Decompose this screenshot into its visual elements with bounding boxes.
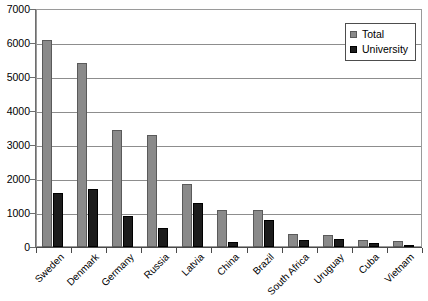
x-axis-tick-mark xyxy=(106,248,107,253)
x-axis-tick-mark xyxy=(387,248,388,253)
x-axis-category-label: Russia xyxy=(142,252,171,281)
legend-entry: University xyxy=(350,42,408,57)
x-axis-tick-mark xyxy=(211,248,212,253)
x-axis-tick-mark xyxy=(176,248,177,253)
x-axis-tick-mark xyxy=(141,248,142,253)
x-axis-tick-mark xyxy=(71,248,72,253)
y-axis-tick-mark xyxy=(30,111,36,112)
x-axis-category-label: Cuba xyxy=(357,252,381,276)
x-axis-category-label: Denmark xyxy=(65,252,101,288)
x-axis-category-label: China xyxy=(216,252,242,278)
bar-chart: 70006000500040003000200010000 SwedenDenm… xyxy=(0,0,428,301)
x-axis-category-label: Latvia xyxy=(180,252,206,278)
x-axis-tick-mark xyxy=(282,248,283,253)
x-axis-tick-mark xyxy=(317,248,318,253)
legend-label: University xyxy=(362,44,408,55)
x-axis-category-label: Sweden xyxy=(33,252,66,285)
x-axis-tick-mark xyxy=(36,248,37,253)
chart-legend: TotalUniversity xyxy=(345,23,416,61)
x-axis-tick-mark xyxy=(247,248,248,253)
legend-entry: Total xyxy=(350,27,408,42)
y-axis-tick-mark xyxy=(30,9,36,10)
total-swatch xyxy=(350,31,357,38)
y-axis-tick-mark xyxy=(30,145,36,146)
y-axis-tick-mark xyxy=(30,77,36,78)
x-axis-category-label: Uruguay xyxy=(313,252,347,286)
legend-label: Total xyxy=(362,29,384,40)
x-axis-tick-mark xyxy=(422,248,423,253)
x-axis-category-label: Brazil xyxy=(251,252,276,277)
y-axis-tick-mark xyxy=(30,213,36,214)
university-swatch xyxy=(350,46,357,53)
x-axis-category-label: Germany xyxy=(100,252,136,288)
y-axis-tick-mark xyxy=(30,43,36,44)
x-axis-tick-mark xyxy=(352,248,353,253)
y-axis-tick-mark xyxy=(30,179,36,180)
x-axis-category-label: Vietnam xyxy=(384,252,417,285)
